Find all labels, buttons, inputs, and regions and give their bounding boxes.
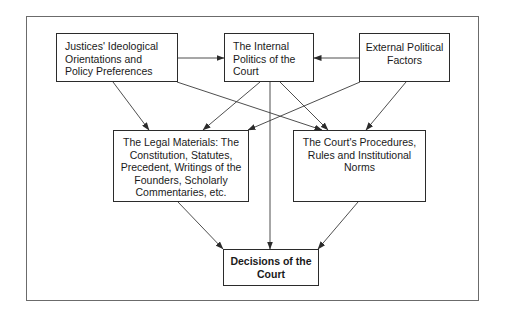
node-external-factors: External Political Factors xyxy=(359,33,450,82)
node-procedures-label: The Court's Procedures, Rules and Instit… xyxy=(297,136,422,174)
node-decisions-label: Decisions of the Court xyxy=(227,255,315,280)
node-ideology-label: Justices' Ideological Orientations and P… xyxy=(65,40,169,78)
edge-procedures-to-decisions xyxy=(318,202,358,249)
edge-internal-to-legal xyxy=(203,82,260,130)
node-internal-politics-label: The Internal Politics of the Court xyxy=(233,40,305,78)
edge-ideology-to-legal xyxy=(113,82,149,130)
edge-external-to-legal xyxy=(248,82,360,130)
edge-legal-to-decisions xyxy=(178,202,223,249)
node-external-factors-label: External Political Factors xyxy=(364,41,445,66)
node-legal-materials: The Legal Materials: The Constitution, S… xyxy=(113,130,249,202)
node-legal-materials-label: The Legal Materials: The Constitution, S… xyxy=(117,136,245,199)
node-internal-politics: The Internal Politics of the Court xyxy=(224,33,314,82)
node-procedures: The Court's Procedures, Rules and Instit… xyxy=(293,130,426,202)
node-decisions: Decisions of the Court xyxy=(223,249,319,286)
edge-ideology-to-procedures xyxy=(177,82,322,130)
edge-external-to-procedures xyxy=(366,82,406,130)
node-ideology: Justices' Ideological Orientations and P… xyxy=(56,33,178,82)
